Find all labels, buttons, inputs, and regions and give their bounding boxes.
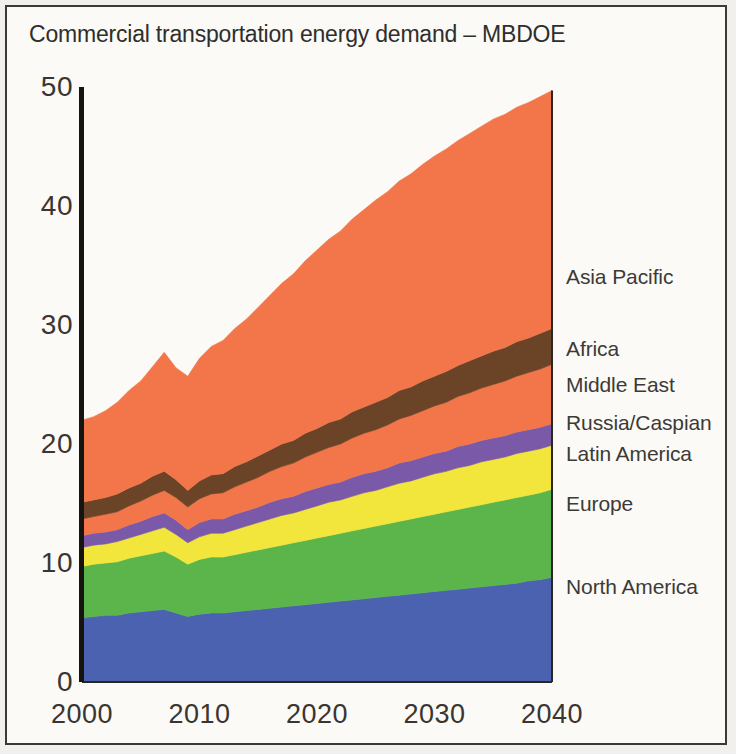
series-label-middle-east: Middle East — [566, 373, 675, 397]
series-label-north-america: North America — [566, 575, 698, 599]
series-label-russia-caspian: Russia/Caspian — [566, 411, 712, 435]
series-label-latin-america: Latin America — [566, 442, 692, 466]
series-label-asia-pacific: Asia Pacific — [566, 265, 673, 289]
y-axis-line — [79, 87, 84, 682]
series-label-africa: Africa — [566, 337, 619, 361]
series-label-europe: Europe — [566, 492, 633, 516]
chart-frame: Commercial transportation energy demand … — [5, 5, 727, 745]
